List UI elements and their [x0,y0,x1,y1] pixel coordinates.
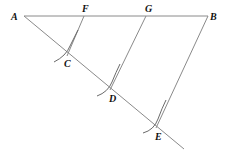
geometry-diagram: A F G B C D E [0,0,228,161]
label-d: D [108,93,116,104]
label-a: A [10,11,18,22]
segment-be [156,16,208,128]
label-f: F [81,3,89,14]
label-c: C [64,58,71,69]
label-b: B [209,11,217,22]
label-g: G [145,3,153,14]
segment-gd [110,16,146,90]
arc-at-e [143,100,166,133]
label-e: E [154,131,162,142]
segment-ae-transversal [24,16,184,149]
